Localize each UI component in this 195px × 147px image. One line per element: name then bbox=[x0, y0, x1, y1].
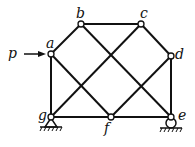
joint-a bbox=[48, 51, 54, 57]
member-cd bbox=[141, 24, 171, 56]
joint-e bbox=[168, 114, 174, 120]
load-label: p bbox=[8, 45, 17, 61]
node-label-b: b bbox=[76, 5, 85, 21]
node-label-e: e bbox=[178, 107, 186, 123]
node-label-c: c bbox=[140, 5, 148, 21]
truss-members bbox=[51, 24, 171, 117]
load-arrow bbox=[24, 51, 46, 57]
joint-b bbox=[78, 21, 84, 27]
joint-g bbox=[48, 114, 54, 120]
node-label-f: f bbox=[103, 120, 112, 136]
node-label-d: d bbox=[175, 46, 184, 62]
member-gc bbox=[51, 24, 141, 117]
joint-d bbox=[168, 53, 174, 59]
member-ab bbox=[51, 24, 81, 54]
node-label-g: g bbox=[38, 107, 47, 123]
node-label-a: a bbox=[46, 35, 54, 51]
truss-diagram: p a bbox=[0, 0, 195, 147]
joint-c bbox=[138, 21, 144, 27]
